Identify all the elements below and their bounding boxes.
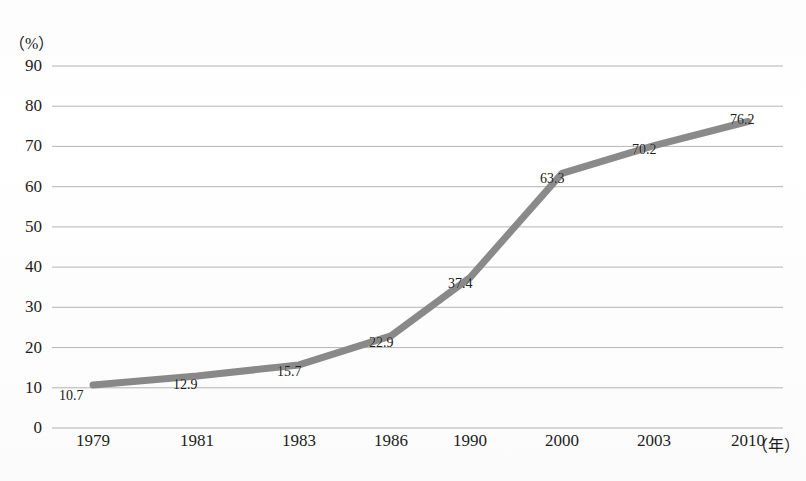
series-polyline xyxy=(93,122,748,386)
data-point-label: 22.9 xyxy=(369,336,394,350)
data-point-label: 63.3 xyxy=(540,172,565,186)
data-point-label: 37.4 xyxy=(448,277,473,291)
data-point-label: 76.2 xyxy=(730,113,755,127)
gridlines xyxy=(52,66,783,428)
data-point-label: 15.7 xyxy=(277,365,302,379)
line-chart: （%） 9080706050403020100 1979198119831986… xyxy=(0,0,806,481)
data-point-label: 70.2 xyxy=(632,143,657,157)
data-series-line xyxy=(93,122,748,386)
data-point-label: 12.9 xyxy=(173,378,198,392)
data-point-label: 10.7 xyxy=(59,389,84,403)
plot-area xyxy=(0,0,806,481)
